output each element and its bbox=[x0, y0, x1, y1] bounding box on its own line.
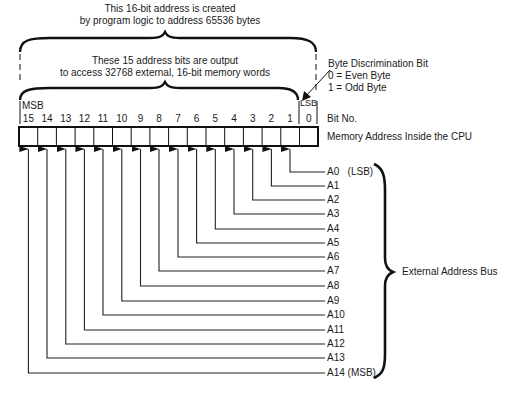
address-line-label: A7 bbox=[327, 266, 339, 276]
address-line-label: A9 bbox=[327, 296, 339, 306]
inner-caption-line1: These 15 address bits are output bbox=[40, 55, 290, 67]
bit-no-label: Bit No. bbox=[327, 113, 357, 125]
bit-number: 8 bbox=[150, 113, 168, 124]
address-line-label: A3 bbox=[327, 209, 339, 219]
address-line-label: A12 bbox=[327, 339, 345, 349]
bit-number: 4 bbox=[225, 113, 243, 124]
inner-brace bbox=[20, 82, 298, 100]
address-line-label: A6 bbox=[327, 252, 339, 262]
address-line-label: A11 bbox=[327, 325, 344, 335]
byte-discrimination-title: Byte Discrimination Bit bbox=[328, 58, 428, 70]
msb-label: MSB bbox=[22, 100, 44, 112]
bit-number: 11 bbox=[94, 113, 112, 124]
top-caption: This 16-bit address is created by progra… bbox=[70, 3, 270, 27]
bus-label: External Address Bus bbox=[402, 266, 498, 278]
even-byte-label: 0 = Even Byte bbox=[328, 70, 428, 82]
bit-number: 6 bbox=[188, 113, 206, 124]
bit-number: 15 bbox=[19, 113, 37, 124]
lsb-label: LSB bbox=[300, 97, 317, 109]
bit-number: 13 bbox=[57, 113, 75, 124]
address-line-label: A0 (LSB) bbox=[327, 167, 373, 177]
lsb-note: (LSB) bbox=[348, 166, 374, 177]
outer-brace bbox=[20, 32, 316, 52]
address-line-label: A14 (MSB) bbox=[327, 368, 376, 378]
bit-number: 3 bbox=[244, 113, 262, 124]
register-label: Memory Address Inside the CPU bbox=[327, 131, 472, 143]
address-line-label: A8 bbox=[327, 281, 339, 291]
address-line-label: A4 bbox=[327, 224, 339, 234]
bit-number: 0 bbox=[300, 113, 318, 124]
address-line-label: A13 bbox=[327, 353, 345, 363]
bus-brace bbox=[374, 164, 393, 378]
bit-number: 5 bbox=[206, 113, 224, 124]
register bbox=[19, 127, 318, 146]
bit-number: 10 bbox=[113, 113, 131, 124]
inner-caption: These 15 address bits are output to acce… bbox=[40, 55, 290, 79]
bit-number: 12 bbox=[75, 113, 93, 124]
byte-discrimination-arrow bbox=[306, 70, 330, 96]
address-line-label: A1 bbox=[327, 181, 339, 191]
bit-number: 1 bbox=[281, 113, 299, 124]
address-line-label: A2 bbox=[327, 195, 339, 205]
odd-byte-label: 1 = Odd Byte bbox=[328, 82, 428, 94]
address-line-label: A10 bbox=[327, 310, 345, 320]
bit-number: 7 bbox=[169, 113, 187, 124]
address-line-label: A5 bbox=[327, 238, 339, 248]
address-wires bbox=[28, 149, 325, 373]
bit-number: 14 bbox=[38, 113, 56, 124]
msb-note: (MSB) bbox=[348, 367, 376, 378]
top-caption-line1: This 16-bit address is created bbox=[70, 3, 270, 15]
top-caption-line2: by program logic to address 65536 bytes bbox=[70, 15, 270, 27]
bit-number: 2 bbox=[262, 113, 280, 124]
byte-discrimination-note: Byte Discrimination Bit 0 = Even Byte 1 … bbox=[328, 58, 428, 94]
inner-caption-line2: to access 32768 external, 16-bit memory … bbox=[40, 67, 290, 79]
bit-number: 9 bbox=[132, 113, 150, 124]
